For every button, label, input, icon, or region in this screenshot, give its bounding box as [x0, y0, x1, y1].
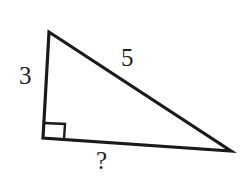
- vertical-leg-label: 3: [19, 62, 32, 89]
- right-triangle-diagram: 3 5 ?: [0, 0, 248, 186]
- hypotenuse-label: 5: [121, 44, 134, 71]
- triangle-outline: [43, 32, 231, 151]
- horizontal-leg-label: ?: [96, 147, 107, 174]
- right-angle-marker: [44, 123, 65, 139]
